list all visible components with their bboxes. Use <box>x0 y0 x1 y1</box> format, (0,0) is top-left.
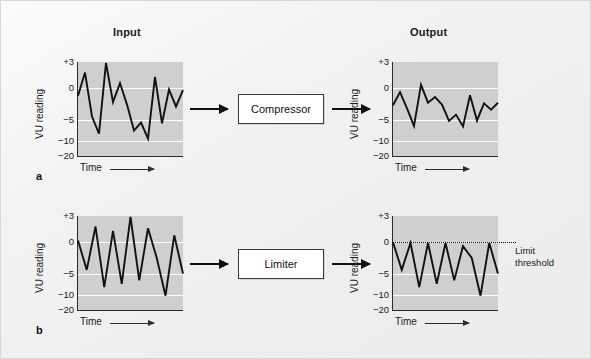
figure-border <box>0 0 591 359</box>
y-tick-label-a-input-0: +3 <box>50 56 74 67</box>
plot-area-b-output <box>393 216 498 310</box>
y-tick-label-a-input-1: 0 <box>50 82 74 93</box>
y-tick-label-a-output-3: −10 <box>365 135 389 146</box>
processor-box-compressor[interactable]: Compressor <box>238 94 324 124</box>
y-tick-label-b-output-2: −5 <box>365 268 389 279</box>
plot-area-a-output <box>393 62 498 156</box>
chart-panel-b-input: +30−5−10−20VU readingTime <box>0 0 591 359</box>
limit-threshold-line-b-output <box>393 242 516 243</box>
chart-panel-a-input: +30−5−10−20VU readingTime <box>0 0 591 359</box>
gridline-a-output-2 <box>393 141 498 142</box>
y-tick-label-b-input-2: −5 <box>50 268 74 279</box>
waveform-svg-a-input <box>0 0 591 359</box>
gridline-b-input-1 <box>78 274 183 275</box>
gridline-a-output-0 <box>393 88 498 89</box>
y-tick-label-b-output-1: 0 <box>365 236 389 247</box>
y-tick-label-a-output-0: +3 <box>365 56 389 67</box>
x-axis-line-a-input <box>77 156 183 157</box>
x-axis-title-b-output: Time <box>395 316 417 327</box>
column-heading-output: Output <box>410 26 447 38</box>
x-axis-arrow-a-input <box>110 169 154 170</box>
y-tick-label-a-output-4: −20 <box>365 150 389 161</box>
plot-area-b-input <box>78 216 183 310</box>
x-axis-title-a-input: Time <box>80 162 102 173</box>
y-tick-label-a-input-3: −10 <box>50 135 74 146</box>
gridline-b-output-2 <box>393 295 498 296</box>
x-axis-arrow-b-input <box>110 323 154 324</box>
gridline-b-output-1 <box>393 274 498 275</box>
y-tick-label-b-input-4: −20 <box>50 304 74 315</box>
waveform-svg-a-output <box>0 0 591 359</box>
gridline-a-output-1 <box>393 120 498 121</box>
waveform-svg-b-input <box>0 0 591 359</box>
flow-arrow-a-in <box>190 108 228 110</box>
gridline-b-input-0 <box>78 242 183 243</box>
plot-area-a-input <box>78 62 183 156</box>
y-axis-line-b-input <box>77 216 78 311</box>
x-axis-arrow-b-output <box>425 323 469 324</box>
waveform-trace-a-output <box>393 85 498 127</box>
y-tick-label-a-output-1: 0 <box>365 82 389 93</box>
y-tick-label-b-input-1: 0 <box>50 236 74 247</box>
y-axis-title-a-output: VU reading <box>349 89 360 139</box>
waveform-trace-b-output <box>393 242 498 295</box>
x-axis-title-a-output: Time <box>395 162 417 173</box>
chart-panel-b-output: +30−5−10−20VU readingTime <box>0 0 591 359</box>
waveform-trace-b-input <box>78 217 183 296</box>
processor-box-limiter-label: Limiter <box>264 258 297 270</box>
gridline-b-input-2 <box>78 295 183 296</box>
y-axis-title-b-input: VU reading <box>34 243 45 293</box>
x-axis-title-b-input: Time <box>80 316 102 327</box>
x-axis-line-a-output <box>392 156 498 157</box>
limit-threshold-annotation-line2: threshold <box>515 257 554 269</box>
panel-letter-a: a <box>36 170 42 182</box>
y-axis-line-b-output <box>392 216 393 311</box>
y-tick-label-b-output-4: −20 <box>365 304 389 315</box>
y-axis-title-a-input: VU reading <box>34 89 45 139</box>
y-axis-line-a-output <box>392 62 393 157</box>
processor-box-limiter[interactable]: Limiter <box>238 249 324 279</box>
waveform-trace-a-input <box>78 63 183 139</box>
y-tick-label-a-input-2: −5 <box>50 114 74 125</box>
flow-arrow-b-in <box>190 263 228 265</box>
limit-threshold-annotation: Limit threshold <box>515 245 554 269</box>
gridline-a-input-0 <box>78 88 183 89</box>
gridline-a-input-1 <box>78 120 183 121</box>
processor-box-compressor-label: Compressor <box>251 103 311 115</box>
y-tick-label-a-output-2: −5 <box>365 114 389 125</box>
x-axis-arrow-a-output <box>425 169 469 170</box>
column-heading-input: Input <box>113 26 141 38</box>
figure-canvas: Input Output a b Compressor Limiter Limi… <box>0 0 591 359</box>
panel-letter-b: b <box>36 324 43 336</box>
flow-arrow-b-out <box>332 263 370 265</box>
limit-threshold-annotation-line1: Limit <box>515 245 554 257</box>
y-tick-label-b-input-3: −10 <box>50 289 74 300</box>
gridline-b-output-0 <box>393 242 498 243</box>
waveform-svg-b-output <box>0 0 591 359</box>
y-tick-label-b-output-3: −10 <box>365 289 389 300</box>
gridline-a-input-2 <box>78 141 183 142</box>
y-tick-label-a-input-4: −20 <box>50 150 74 161</box>
flow-arrow-a-out <box>332 108 370 110</box>
x-axis-line-b-output <box>392 310 498 311</box>
y-axis-title-b-output: VU reading <box>349 243 360 293</box>
y-tick-label-b-input-0: +3 <box>50 210 74 221</box>
x-axis-line-b-input <box>77 310 183 311</box>
chart-panel-a-output: +30−5−10−20VU readingTime <box>0 0 591 359</box>
y-tick-label-b-output-0: +3 <box>365 210 389 221</box>
y-axis-line-a-input <box>77 62 78 157</box>
